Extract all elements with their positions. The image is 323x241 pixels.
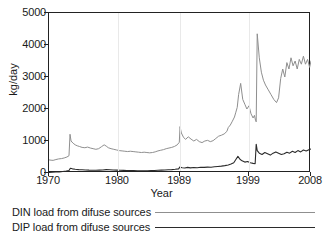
y-tick-label: 4000 bbox=[0, 39, 46, 50]
x-tick-mark bbox=[310, 172, 311, 176]
legend-item-dip: DIP load from difuse sources bbox=[12, 220, 317, 235]
chart-figure: kg/day 010002000300040005000 19701980198… bbox=[0, 0, 323, 241]
y-tick-label: 2000 bbox=[0, 103, 46, 114]
x-tick-label: 1970 bbox=[26, 175, 70, 186]
legend-swatch-din bbox=[155, 212, 315, 213]
legend-label-dip: DIP load from difuse sources bbox=[12, 222, 150, 233]
plot-area bbox=[48, 12, 310, 172]
gridline-vertical bbox=[118, 13, 119, 171]
gridline-vertical bbox=[249, 13, 250, 171]
legend-label-din: DIN load from difuse sources bbox=[12, 207, 151, 218]
x-tick-mark bbox=[48, 172, 49, 176]
x-tick-mark bbox=[179, 172, 180, 176]
legend-swatch-dip bbox=[155, 227, 315, 228]
x-tick-mark bbox=[248, 172, 249, 176]
x-tick-mark bbox=[117, 172, 118, 176]
y-tick-label: 3000 bbox=[0, 71, 46, 82]
chart-legend: DIN load from difuse sources DIP load fr… bbox=[12, 205, 317, 235]
x-tick-label: 1989 bbox=[157, 175, 201, 186]
x-axis-label: Year bbox=[0, 188, 323, 199]
x-tick-label: 1999 bbox=[226, 175, 270, 186]
legend-item-din: DIN load from difuse sources bbox=[12, 205, 317, 220]
x-tick-label: 2008 bbox=[288, 175, 323, 186]
y-tick-label: 5000 bbox=[0, 7, 46, 18]
gridline-vertical bbox=[180, 13, 181, 171]
y-tick-label: 1000 bbox=[0, 135, 46, 146]
x-tick-label: 1980 bbox=[95, 175, 139, 186]
